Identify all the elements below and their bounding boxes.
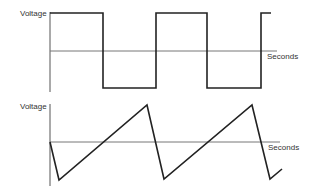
y-axis-label: Voltage xyxy=(20,102,47,111)
x-axis-label: Seconds xyxy=(267,52,298,61)
sawtooth-wave-diagram: Voltage Seconds xyxy=(20,102,299,186)
y-axis-label: Voltage xyxy=(20,9,47,18)
x-axis-label: Seconds xyxy=(268,143,299,152)
square-wave-diagram: Voltage Seconds xyxy=(20,9,298,92)
waveform-diagrams: Voltage Seconds Voltage Seconds xyxy=(0,0,317,196)
